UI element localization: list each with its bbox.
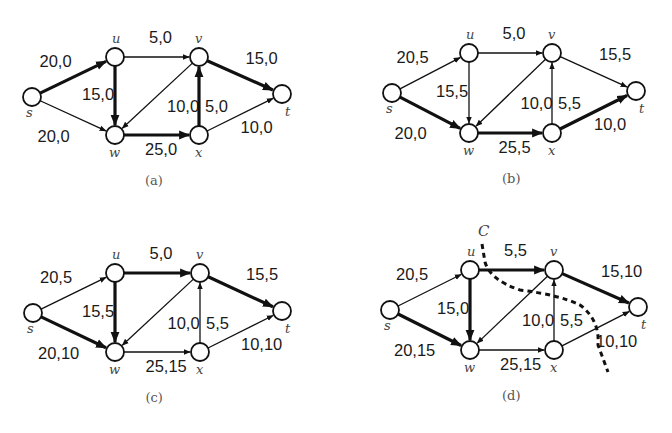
edge-label-u-v: 5,0 bbox=[503, 24, 526, 42]
edge-label-w-x: 25,0 bbox=[145, 140, 177, 158]
panel-caption: (b) bbox=[502, 171, 520, 186]
node-w bbox=[460, 124, 478, 142]
node-t bbox=[273, 302, 291, 320]
node-label-v: v bbox=[195, 31, 203, 46]
edge-label-x-v: 5,5 bbox=[206, 314, 229, 332]
flow-network-figure: 20,020,05,015,010,025,05,015,010,0suvwxt… bbox=[0, 0, 672, 433]
node-s bbox=[23, 88, 41, 106]
node-label-t: t bbox=[639, 101, 645, 116]
node-x bbox=[543, 124, 561, 142]
edge-label-v-t: 15,10 bbox=[601, 262, 642, 280]
node-label-u: u bbox=[112, 247, 120, 262]
edge-label-v-w: 10,0 bbox=[167, 97, 199, 115]
edge-label-w-x: 25,5 bbox=[499, 138, 531, 156]
panel-a: 20,020,05,015,010,025,05,015,010,0suvwxt… bbox=[23, 28, 291, 188]
edge-label-u-v: 5,5 bbox=[504, 241, 527, 259]
panel-caption: (d) bbox=[502, 388, 520, 403]
node-t bbox=[273, 85, 291, 103]
panel-caption: (a) bbox=[145, 173, 163, 188]
node-label-u: u bbox=[112, 31, 120, 46]
node-x bbox=[190, 126, 208, 144]
edge-label-v-t: 15,0 bbox=[246, 49, 278, 67]
edge-label-s-u: 20,5 bbox=[396, 265, 428, 283]
edge-v-w bbox=[476, 59, 545, 126]
edge-label-u-v: 5,0 bbox=[149, 28, 172, 46]
edge-label-v-w: 10,0 bbox=[168, 314, 200, 332]
edge-label-w-x: 25,15 bbox=[146, 357, 187, 375]
edge-label-s-w: 20,0 bbox=[395, 124, 427, 142]
node-label-s: s bbox=[26, 105, 33, 120]
panel-caption: (c) bbox=[146, 390, 163, 405]
edge-label-x-t: 10,10 bbox=[596, 332, 637, 350]
node-label-s: s bbox=[384, 318, 391, 333]
node-u bbox=[461, 261, 479, 279]
node-s bbox=[383, 84, 401, 102]
node-u bbox=[460, 44, 478, 62]
node-w bbox=[461, 341, 479, 359]
node-u bbox=[106, 264, 124, 282]
node-w bbox=[106, 343, 124, 361]
node-label-x: x bbox=[196, 362, 204, 377]
edge-label-s-u: 20,0 bbox=[40, 52, 72, 70]
node-w bbox=[106, 126, 124, 144]
edge-label-w-x: 25,15 bbox=[500, 355, 541, 373]
node-label-v: v bbox=[550, 244, 558, 259]
edge-label-x-v: 5,5 bbox=[560, 311, 583, 329]
edge-label-s-u: 20,5 bbox=[40, 268, 72, 286]
edge-v-w bbox=[122, 279, 193, 345]
panel-c: 20,520,105,015,510,025,155,515,510,10suv… bbox=[24, 244, 291, 405]
node-x bbox=[545, 341, 563, 359]
edge-label-x-t: 10,10 bbox=[241, 335, 282, 353]
edge-label-v-w: 10,0 bbox=[521, 94, 553, 112]
node-v bbox=[543, 44, 561, 62]
node-label-s: s bbox=[27, 321, 34, 336]
edge-label-s-w: 20,0 bbox=[38, 127, 70, 145]
panel-d: 20,520,155,515,010,025,155,515,1010,10su… bbox=[381, 222, 647, 403]
panel-b: 20,520,05,015,510,025,55,515,510,0suvwxt… bbox=[383, 24, 645, 186]
edge-label-u-w: 15,5 bbox=[436, 82, 468, 100]
edge-label-u-w: 15,0 bbox=[437, 299, 469, 317]
node-v bbox=[545, 261, 563, 279]
edge-label-s-u: 20,5 bbox=[397, 48, 429, 66]
edge-label-x-v: 5,0 bbox=[205, 97, 228, 115]
edge-label-v-w: 10,0 bbox=[522, 311, 554, 329]
edge-label-s-w: 20,10 bbox=[38, 344, 79, 362]
node-label-u: u bbox=[466, 27, 474, 42]
edge-label-u-v: 5,0 bbox=[150, 244, 173, 262]
node-x bbox=[191, 343, 209, 361]
node-label-w: w bbox=[464, 360, 475, 375]
edge-label-x-v: 5,5 bbox=[558, 94, 581, 112]
cut-label: C bbox=[478, 222, 490, 240]
edge-label-v-t: 15,5 bbox=[599, 45, 631, 63]
node-label-t: t bbox=[641, 317, 647, 332]
node-label-v: v bbox=[196, 247, 204, 262]
node-label-w: w bbox=[109, 145, 120, 160]
node-t bbox=[629, 298, 647, 316]
node-t bbox=[627, 82, 645, 100]
node-label-w: w bbox=[109, 362, 120, 377]
node-label-t: t bbox=[285, 321, 291, 336]
node-label-u: u bbox=[467, 244, 475, 259]
node-s bbox=[24, 304, 42, 322]
node-label-w: w bbox=[463, 143, 474, 158]
edge-label-s-w: 20,15 bbox=[394, 341, 435, 359]
node-u bbox=[106, 48, 124, 66]
node-v bbox=[190, 48, 208, 66]
edge-label-u-w: 15,5 bbox=[82, 302, 114, 320]
node-label-s: s bbox=[386, 101, 393, 116]
node-label-x: x bbox=[548, 143, 556, 158]
edge-label-u-w: 15,0 bbox=[82, 85, 114, 103]
node-v bbox=[191, 264, 209, 282]
edge-v-w bbox=[122, 63, 192, 128]
node-label-x: x bbox=[550, 360, 558, 375]
edge-label-x-t: 10,0 bbox=[594, 115, 626, 133]
edge-label-v-t: 15,5 bbox=[246, 265, 278, 283]
node-label-t: t bbox=[285, 104, 291, 119]
node-s bbox=[381, 301, 399, 319]
edge-label-x-t: 10,0 bbox=[241, 118, 273, 136]
node-label-v: v bbox=[548, 27, 556, 42]
node-label-x: x bbox=[195, 145, 203, 160]
